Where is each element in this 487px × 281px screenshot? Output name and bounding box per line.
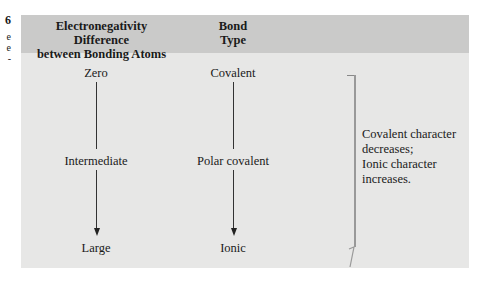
header-bond-type: Bond Type (197, 19, 269, 47)
header-line: Electronegativity Difference (29, 19, 174, 47)
bracket-bottom-icon (341, 245, 361, 270)
difference-intermediate: Intermediate (56, 154, 136, 168)
bond-polar-covalent: Polar covalent (178, 154, 288, 168)
arrow-line (96, 170, 97, 230)
note-line: decreases; (362, 142, 467, 157)
bracket-line (354, 75, 356, 247)
bond-ionic: Ionic (198, 241, 268, 255)
table-header: Electronegativity Difference between Bon… (21, 15, 469, 53)
trend-note: Covalent character decreases; Ionic char… (362, 127, 467, 187)
bracket-top (347, 75, 354, 76)
caption-number-fragment: 6 (5, 14, 11, 26)
note-line: Covalent character (362, 127, 467, 142)
arrow-down-icon (94, 228, 100, 236)
connector-line (96, 82, 97, 149)
difference-zero: Zero (66, 66, 126, 80)
note-line: Ionic character (362, 157, 467, 172)
header-line: Type (197, 33, 269, 47)
bond-type-table: Electronegativity Difference between Bon… (21, 15, 469, 268)
arrow-line (233, 170, 234, 230)
bond-covalent: Covalent (188, 66, 278, 80)
connector-line (233, 82, 234, 149)
header-line: Bond (197, 19, 269, 33)
header-electronegativity-difference: Electronegativity Difference between Bon… (29, 19, 174, 61)
arrow-down-icon (231, 228, 237, 236)
caption-fragment: - (8, 53, 11, 65)
note-line: increases. (362, 172, 467, 187)
header-line: between Bonding Atoms (29, 47, 174, 61)
difference-large: Large (66, 241, 126, 255)
